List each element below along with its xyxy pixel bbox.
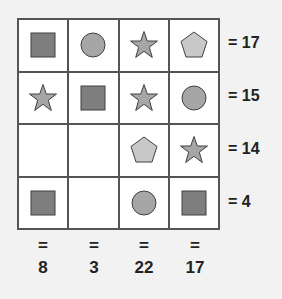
cell-r2-c4	[169, 72, 219, 125]
cell-r1-c1	[18, 19, 68, 72]
cell-r4-c3	[119, 177, 169, 230]
row-sum-3: = 14	[228, 140, 260, 158]
cell-r3-c3	[119, 124, 169, 177]
square-icon	[28, 30, 58, 60]
cell-r3-c1	[18, 124, 68, 177]
row-sum-4: = 4	[228, 193, 251, 211]
star-icon	[179, 135, 209, 165]
col-sum-3: =22	[119, 235, 169, 279]
cell-r1-c2	[68, 19, 118, 72]
square-icon	[28, 188, 58, 218]
puzzle-grid	[17, 18, 220, 230]
cell-r3-c2	[68, 124, 118, 177]
row-sum-2: = 15	[228, 87, 260, 105]
pentagon-icon	[179, 30, 209, 60]
cell-r2-c1	[18, 72, 68, 125]
cell-r2-c3	[119, 72, 169, 125]
pentagon-icon	[129, 135, 159, 165]
star-icon	[129, 30, 159, 60]
col-sum-2: =3	[69, 235, 119, 279]
star-icon	[28, 83, 58, 113]
col-sum-1: =8	[18, 235, 68, 279]
cell-r3-c4	[169, 124, 219, 177]
circle-icon	[129, 188, 159, 218]
star-icon	[129, 83, 159, 113]
cell-r4-c1	[18, 177, 68, 230]
square-icon	[179, 188, 209, 218]
col-sum-4: =17	[170, 235, 220, 279]
row-sum-1: = 17	[228, 34, 260, 52]
square-icon	[78, 83, 108, 113]
circle-icon	[78, 30, 108, 60]
cell-r4-c2	[68, 177, 118, 230]
circle-icon	[179, 83, 209, 113]
cell-r1-c4	[169, 19, 219, 72]
cell-r4-c4	[169, 177, 219, 230]
cell-r2-c2	[68, 72, 118, 125]
cell-r1-c3	[119, 19, 169, 72]
